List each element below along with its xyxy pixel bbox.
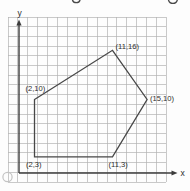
cropped-text-fragment-left — [73, 0, 81, 3]
y-axis-arrowhead-icon — [16, 20, 21, 26]
x-axis-label: x — [181, 168, 186, 178]
y-axis-label: y — [17, 8, 22, 18]
cropped-text-fragment-right — [169, 0, 178, 3]
copyright-mark-icon — [3, 172, 12, 181]
vertex-label: (15,10) — [150, 94, 175, 103]
vertex-label: (2,10) — [26, 84, 46, 93]
vertex-label: (2,3) — [26, 160, 42, 169]
coordinate-grid-figure: yx(2,10)(11,16)(15,10)(11,3)(2,3) — [0, 0, 190, 191]
figure-canvas: yx(2,10)(11,16)(15,10)(11,3)(2,3) — [0, 0, 190, 191]
vertex-label: (11,3) — [109, 160, 129, 169]
vertex-label: (11,16) — [116, 42, 140, 51]
pentagon-outline — [35, 50, 148, 157]
x-axis-arrowhead-icon — [172, 170, 178, 175]
cropped-text-fragments — [73, 0, 178, 3]
